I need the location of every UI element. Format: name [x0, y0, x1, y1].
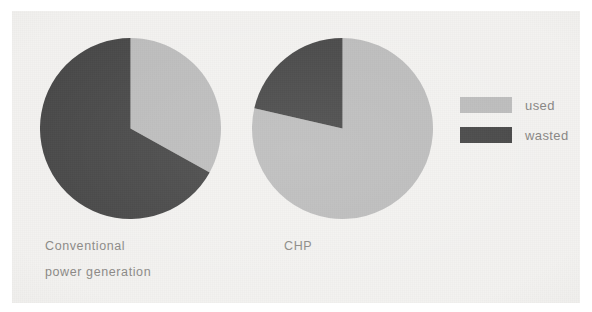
figure-root: Conventional power generation CHP used w… — [0, 0, 592, 312]
pie-chart-chp — [252, 38, 433, 219]
pie-conventional-svg — [40, 38, 221, 219]
pie-label-chp-line1: CHP — [284, 233, 312, 259]
legend-item-used: used — [460, 90, 580, 120]
pie-label-conventional-line2: power generation — [45, 259, 225, 285]
legend-swatch-wasted — [460, 127, 512, 143]
legend-label-wasted: wasted — [525, 128, 569, 143]
figure-panel: Conventional power generation CHP used w… — [12, 11, 580, 303]
pie-label-conventional: Conventional power generation — [45, 233, 225, 285]
pie-chart-conventional — [40, 38, 221, 219]
legend-item-wasted: wasted — [460, 120, 580, 150]
pie-chp-svg — [252, 38, 433, 219]
legend: used wasted — [460, 90, 580, 150]
legend-swatch-used — [460, 97, 512, 113]
pie-label-conventional-line1: Conventional — [45, 233, 225, 259]
pie-label-chp: CHP — [284, 233, 312, 259]
legend-label-used: used — [525, 98, 555, 113]
